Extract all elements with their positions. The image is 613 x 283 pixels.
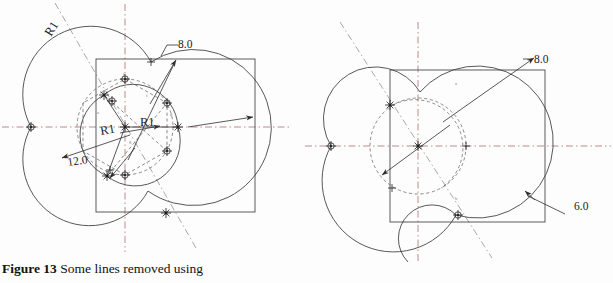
figure-page: R1 R1 R1 8.0 12.0 a b c d e f g bbox=[0, 0, 613, 283]
vertex-tag-g-left: g bbox=[129, 139, 132, 144]
arc-upper-left bbox=[23, 26, 151, 127]
radius-label-center-left: R1 bbox=[99, 122, 116, 138]
dimension-12-0-left: 12.0 bbox=[67, 153, 89, 168]
dimension-6-0-right: 6.0 bbox=[574, 200, 589, 212]
figure-caption-label: Figure 13 bbox=[2, 261, 57, 276]
figure-caption-text: Some lines removed using bbox=[57, 261, 203, 276]
centerline-diagonal-right bbox=[340, 22, 492, 258]
dimension-8-0-left: 8.0 bbox=[178, 38, 193, 50]
vertex-tag-a-right: a bbox=[455, 81, 457, 86]
figure-canvas: R1 R1 R1 8.0 12.0 a b c d e f g bbox=[0, 0, 613, 283]
right-diagram-group: 8.0 6.0 a b bbox=[305, 22, 611, 262]
radius-leader-right bbox=[188, 117, 253, 127]
radius-label-upper-left: R1 bbox=[42, 19, 62, 39]
left-diagram-group: R1 R1 R1 8.0 12.0 a b c d e f g bbox=[2, 3, 292, 252]
radius-leader-diag bbox=[128, 64, 174, 160]
bounding-square-left bbox=[96, 59, 255, 212]
centerline-diagonal-a-left bbox=[55, 3, 196, 248]
dim-leader-8-right-upper bbox=[443, 58, 534, 122]
arc-right-large bbox=[148, 50, 271, 206]
figure-caption: Figure 13 Some lines removed using bbox=[2, 261, 422, 277]
arc-right-large-right-fig bbox=[420, 66, 553, 218]
vertex-tag-d-left: d bbox=[170, 112, 173, 117]
dim-leader-8-right-lower bbox=[382, 125, 450, 175]
dimension-8-0-right: 8.0 bbox=[534, 53, 549, 65]
construction-arc-right bbox=[393, 100, 463, 188]
dim-leader-6-arrow-right bbox=[525, 191, 535, 200]
vertex-tag-f-left: f bbox=[146, 93, 148, 98]
arc-lower-left-right-fig bbox=[322, 146, 456, 252]
vertex-tag-a-left: a bbox=[97, 110, 99, 115]
radius-label-center-right: R1 bbox=[140, 115, 155, 129]
vertex-tag-c-left: c bbox=[124, 182, 126, 187]
arc-bottom-small-right-fig bbox=[398, 205, 456, 262]
vertex-tag-e-left: e bbox=[170, 148, 172, 153]
vertex-tag-b-right: b bbox=[455, 196, 458, 201]
